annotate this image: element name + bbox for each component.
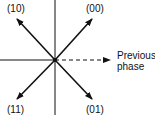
label-00: (00) bbox=[86, 3, 104, 14]
arrow-00 bbox=[55, 19, 92, 60]
arrow-10 bbox=[17, 19, 55, 60]
label-01: (01) bbox=[86, 104, 104, 115]
label-11: (11) bbox=[7, 104, 24, 115]
label-10: (10) bbox=[7, 3, 25, 14]
previous-label-line2: phase bbox=[117, 61, 144, 72]
arrow-11 bbox=[17, 60, 55, 99]
previous-label-line1: Previous bbox=[117, 50, 155, 61]
arrow-01 bbox=[55, 60, 92, 99]
origin-dot bbox=[53, 58, 57, 62]
